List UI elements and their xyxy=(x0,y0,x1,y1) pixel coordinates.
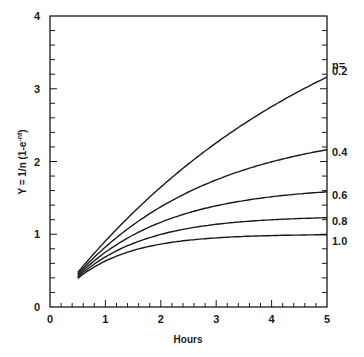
x-axis-label: Hours xyxy=(174,334,203,345)
series-label-n-0_2: 0.2 xyxy=(332,65,347,77)
y-tick-label: 3 xyxy=(34,83,40,95)
x-tick-label: 5 xyxy=(324,313,330,325)
y-axis-label: Y = 1/n (1-e-nt) xyxy=(16,129,28,194)
series-curve-n-0_8 xyxy=(78,218,327,277)
y-axis-label-tail: ) xyxy=(17,129,28,132)
x-tick-label: 0 xyxy=(47,313,53,325)
series-label-n-0_4: 0.4 xyxy=(332,146,348,158)
y-tick-label: 4 xyxy=(34,10,41,22)
y-axis-tick-labels: 01234 xyxy=(34,10,41,313)
series-curves xyxy=(78,77,327,278)
y-tick-label: 1 xyxy=(34,228,40,240)
x-tick-label: 4 xyxy=(269,313,276,325)
x-tick-label: 3 xyxy=(213,313,219,325)
series-label-n-1_0: 1.0 xyxy=(332,235,347,247)
y-tick-label: 2 xyxy=(34,156,40,168)
y-tick-label: 0 xyxy=(34,301,40,313)
x-axis-tick-labels: 012345 xyxy=(47,313,330,325)
series-curve-n-0_6 xyxy=(78,192,327,276)
series-curve-n-1_0 xyxy=(78,235,327,279)
series-curve-n-0_4 xyxy=(78,150,327,274)
series-label-n-0_6: 0.6 xyxy=(332,189,347,201)
series-label-n-0_8: 0.8 xyxy=(332,215,347,227)
series-curve-n-0_2 xyxy=(78,77,327,272)
x-tick-label: 2 xyxy=(158,313,164,325)
series-labels: n= 0.20.40.60.81.0 xyxy=(332,59,348,247)
line-chart: 012345 01234 n= 0.20.40.60.81.0 Hours Y … xyxy=(0,0,364,357)
y-axis-label-main: Y = 1/n (1-e xyxy=(17,141,28,194)
x-tick-label: 1 xyxy=(102,313,108,325)
